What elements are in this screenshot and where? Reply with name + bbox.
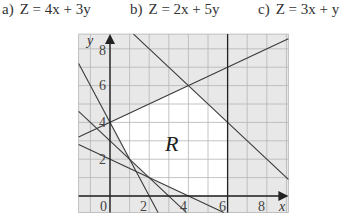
- x-tick-2: 2: [140, 199, 147, 214]
- y-tick-4: 4: [99, 115, 106, 130]
- y-tick-8: 8: [99, 43, 106, 58]
- x-tick-8: 8: [258, 199, 265, 214]
- x-tick-6: 6: [219, 199, 226, 214]
- x-tick-0: 0: [100, 199, 107, 214]
- y-tick-2: 2: [99, 152, 106, 167]
- y-tick-6: 6: [99, 78, 106, 93]
- y-axis-label: y: [85, 33, 94, 48]
- x-axis-label: x: [278, 199, 286, 214]
- feasible-region-graph: y x 0 2 4 6 8 2 4 6 8 R: [0, 0, 345, 223]
- region-label-r: R: [164, 131, 179, 156]
- x-tick-4: 4: [180, 199, 187, 214]
